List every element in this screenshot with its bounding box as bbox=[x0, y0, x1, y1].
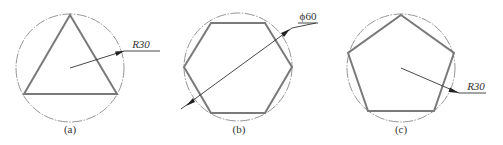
panel-b: ϕ60 (b) bbox=[181, 10, 318, 136]
figure-canvas: R30 (a) ϕ60 (b) R30 (c) bbox=[0, 0, 503, 145]
arrow-icon bbox=[186, 98, 195, 106]
panel-a: R30 (a) bbox=[16, 14, 160, 136]
pentagon-shape bbox=[348, 15, 454, 111]
caption-b: (b) bbox=[233, 123, 246, 136]
dimension-label-c: R30 bbox=[466, 80, 485, 92]
diameter-extension-b bbox=[292, 23, 316, 28]
triangle-shape bbox=[24, 15, 117, 94]
hexagon-shape bbox=[184, 23, 292, 113]
caption-a: (a) bbox=[64, 123, 77, 136]
panel-c: R30 (c) bbox=[347, 14, 486, 136]
dimension-label-b: ϕ60 bbox=[300, 10, 317, 22]
arrow-icon bbox=[449, 88, 460, 94]
dimension-label-a: R30 bbox=[131, 38, 150, 50]
caption-c: (c) bbox=[395, 123, 408, 136]
